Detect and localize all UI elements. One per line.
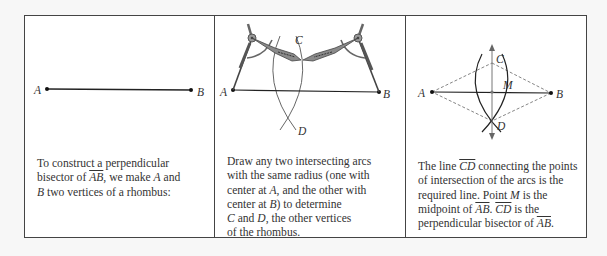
- caption-text: ) to determine: [277, 198, 342, 211]
- caption-text: perpendicular bisector of: [418, 217, 537, 230]
- label-a: A: [219, 86, 228, 98]
- caption-text: is the: [511, 203, 539, 216]
- label-m: M: [502, 79, 514, 91]
- label-d: D: [297, 125, 307, 137]
- caption-text: center at: [227, 184, 269, 197]
- caption-text: bisector of: [37, 171, 89, 184]
- point-ref: B: [269, 198, 276, 211]
- caption-text: center at: [227, 198, 269, 211]
- label-c: C: [496, 53, 504, 65]
- caption-step-1: To construct a perpendicular bisector of…: [37, 157, 212, 200]
- label-a: A: [417, 87, 426, 99]
- point-a: [430, 90, 434, 94]
- caption-text: midpoint of: [418, 203, 475, 216]
- label-c: C: [295, 34, 303, 46]
- compass-arcs-diagram: C A B D: [215, 16, 406, 156]
- caption-step-2: Draw any two intersecting arcs with the …: [227, 155, 402, 241]
- label-b: B: [383, 88, 390, 100]
- panel-step-3: C A B M D The line CD connecting the poi…: [405, 16, 588, 237]
- compass-left-icon: [233, 24, 301, 90]
- caption-text: of intersection of the arcs is the: [418, 174, 564, 187]
- rhombus-bisector-diagram: C A B M D: [406, 16, 589, 156]
- caption-text: with the same radius (one with: [227, 169, 370, 182]
- arc-from-a: [280, 36, 303, 130]
- line-cd-notation: CD: [459, 160, 475, 173]
- caption-text: connecting the points: [475, 160, 577, 173]
- caption-text: required line. Point: [418, 189, 510, 202]
- point-m: [490, 90, 493, 93]
- panel-step-1: A B To construct a perpendicular bisecto…: [25, 16, 214, 237]
- caption-text: of the rhombus.: [227, 226, 300, 239]
- caption-text: and: [161, 171, 181, 184]
- point-ref: D: [257, 212, 265, 225]
- caption-text: , the other vertices: [266, 212, 352, 225]
- caption-text: two vertices of a rhombus:: [44, 186, 171, 199]
- point-b: [549, 91, 553, 95]
- point-b: [189, 88, 193, 92]
- label-b: B: [197, 86, 204, 98]
- segment-ab-notation: AB: [475, 203, 489, 216]
- point-ref: C: [227, 212, 235, 225]
- label-a: A: [33, 84, 42, 96]
- label-d: D: [496, 120, 506, 132]
- arrow-down-icon: [489, 133, 495, 140]
- caption-text: and: [235, 212, 258, 225]
- point-a: [45, 87, 49, 91]
- caption-text: The line: [418, 160, 459, 173]
- segment-ab-diagram: A B: [25, 16, 214, 156]
- caption-text: , and the other with: [277, 184, 367, 197]
- point-ref: M: [510, 189, 520, 202]
- caption-text: Draw any two intersecting arcs: [227, 155, 371, 168]
- panel-step-2: C A B D Draw any two intersecting arcs w…: [214, 16, 405, 237]
- caption-text: To construct a perpendicular: [37, 157, 169, 170]
- point-ref: A: [154, 171, 161, 184]
- point-ref: A: [269, 184, 276, 197]
- line-cd-notation: CD: [495, 203, 511, 216]
- compass-right-icon: [303, 24, 379, 92]
- caption-step-3: The line CD connecting the points of int…: [418, 160, 586, 231]
- caption-text: , we make: [103, 171, 153, 184]
- caption-text: .: [551, 217, 554, 230]
- segment-ab-notation: AB: [89, 171, 103, 184]
- caption-text: is the: [520, 189, 548, 202]
- arrow-up-icon: [489, 44, 495, 51]
- segment-ab-notation: AB: [537, 217, 551, 230]
- construction-figure: A B To construct a perpendicular bisecto…: [24, 15, 587, 238]
- label-b: B: [556, 88, 563, 100]
